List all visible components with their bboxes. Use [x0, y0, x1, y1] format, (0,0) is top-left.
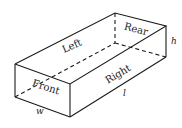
- hidden-rear-bottom-edge: [115, 43, 166, 57]
- top-face-outline: [15, 13, 166, 84]
- dimension-label-length: l: [123, 88, 126, 98]
- face-label-front: Front: [31, 77, 61, 96]
- face-label-right: Right: [103, 62, 132, 85]
- dimension-label-height: h: [171, 36, 177, 46]
- right-bottom-edge: [70, 57, 166, 117]
- face-label-rear: Rear: [123, 21, 149, 38]
- box-diagram: Left Rear Right Front h l w: [0, 0, 182, 128]
- dimension-label-width: w: [36, 106, 44, 116]
